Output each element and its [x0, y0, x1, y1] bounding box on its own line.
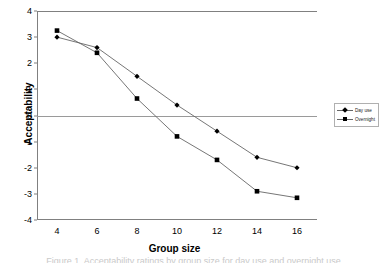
x-tick-label: 10 [172, 226, 182, 236]
data-point[interactable] [54, 35, 59, 40]
x-axis-title: Group size [32, 243, 317, 254]
y-tick-label: -3 [24, 189, 32, 199]
data-point[interactable] [95, 51, 100, 56]
x-tick-label: 8 [134, 226, 139, 236]
series-layer [37, 11, 317, 220]
y-tick-label: 3 [27, 32, 32, 42]
series-overnight [55, 28, 300, 200]
x-tick-label: 16 [292, 226, 302, 236]
legend-item-day-use[interactable]: Day use [337, 106, 375, 115]
data-point[interactable] [55, 28, 60, 33]
x-tick-label: 12 [212, 226, 222, 236]
legend-label-day-use: Day use [355, 106, 372, 115]
y-tick-label: -1 [24, 137, 32, 147]
x-tick-label: 4 [54, 226, 59, 236]
data-point[interactable] [254, 155, 259, 160]
series-line [57, 37, 297, 168]
data-point[interactable] [214, 129, 219, 134]
x-tick-label: 6 [94, 226, 99, 236]
data-point[interactable] [294, 165, 299, 170]
y-tick-label: 1 [27, 84, 32, 94]
x-tick-label: 14 [252, 226, 262, 236]
data-point[interactable] [215, 158, 220, 163]
legend-marker-diamond-icon [337, 107, 353, 114]
data-point[interactable] [255, 189, 260, 194]
series-line [57, 31, 297, 198]
plot-area: 43210-1-2-3-4 46810121416 [37, 11, 317, 220]
y-tick-label: 2 [27, 58, 32, 68]
chart-figure: Acceptability 43210-1-2-3-4 46810121416 … [0, 0, 387, 263]
data-point[interactable] [135, 96, 140, 101]
series-day-use [54, 35, 299, 171]
y-tick-label: 4 [27, 6, 32, 16]
legend-marker-square-icon [337, 116, 353, 123]
figure-caption: Figure 1. Acceptability ratings by group… [0, 256, 387, 263]
chart-legend: Day use Overnight [334, 103, 379, 127]
y-tick-label: -4 [24, 215, 32, 225]
legend-item-overnight[interactable]: Overnight [337, 115, 375, 124]
data-point[interactable] [175, 134, 180, 139]
legend-label-overnight: Overnight [355, 115, 375, 124]
data-point[interactable] [295, 195, 300, 200]
y-tick-label: -2 [24, 163, 32, 173]
y-tick-label: 0 [27, 111, 32, 121]
